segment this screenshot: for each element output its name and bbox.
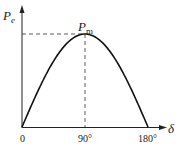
tick-90: 90° bbox=[78, 133, 92, 144]
tick-0: 0 bbox=[20, 133, 25, 144]
x-axis-label: δ bbox=[168, 121, 175, 136]
power-angle-chart: Pe Pm δ 0 90° 180° bbox=[0, 0, 183, 149]
x-axis-arrow-icon bbox=[159, 125, 167, 130]
peak-label: Pm bbox=[77, 19, 93, 36]
y-axis-arrow-icon bbox=[20, 5, 25, 13]
tick-180: 180° bbox=[138, 133, 157, 144]
y-axis-label: Pe bbox=[2, 8, 15, 25]
